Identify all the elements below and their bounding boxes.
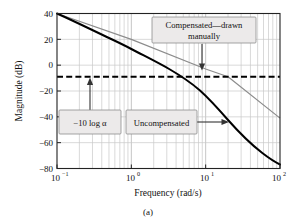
x-tick-label-group: 10 0 [126,170,140,182]
x-tick-label-group: 10 1 [200,170,214,182]
x-axis-tick-labels: 10 −1 10 0 10 1 10 2 [51,170,286,182]
y-tick-label: −40 [39,112,54,122]
y-axis-title: Magnitude (dB) [14,61,25,122]
bode-plot-svg: 40 20 0 −20 −40 −60 −80 10 −1 10 0 [0,0,296,221]
bode-magnitude-figure: 40 20 0 −20 −40 −60 −80 10 −1 10 0 [0,0,296,221]
uncompensated-callout-label: Uncompensated [134,118,190,128]
x-tick-label-group: 10 −1 [51,170,69,182]
y-axis-tick-labels: 40 20 0 −20 −40 −60 −80 [39,9,54,174]
x-tick-base: 10 [126,173,136,183]
x-tick-base: 10 [200,173,210,183]
x-tick-exponent: −1 [62,170,69,177]
y-tick-label: 0 [49,60,54,70]
x-tick-base: 10 [51,173,61,183]
compensated-callout-line2: manually [188,31,221,41]
x-tick-label-group: 10 2 [272,170,286,182]
x-tick-exponent: 1 [211,170,214,177]
y-tick-label: −20 [39,86,54,96]
y-tick-label: −60 [39,138,54,148]
x-axis-title: Frequency (rad/s) [134,188,201,199]
y-tick-label: 20 [44,35,54,45]
x-tick-exponent: 0 [137,170,140,177]
figure-caption: (a) [143,207,153,217]
x-tick-exponent: 2 [283,170,286,177]
alpha-callout-label: −10 log α [73,118,107,128]
y-tick-label: 40 [44,9,54,19]
x-tick-base: 10 [272,173,282,183]
compensated-callout-line1: Compensated—drawn [166,20,244,30]
